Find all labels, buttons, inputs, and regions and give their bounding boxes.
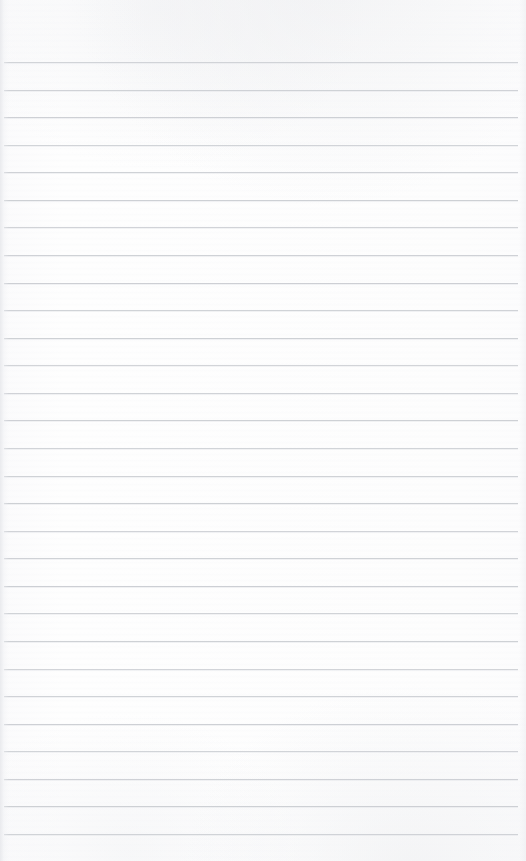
rule-line [4, 62, 518, 63]
rule-line [4, 558, 518, 559]
left-edge-scan-seam [0, 0, 9, 861]
rule-line [4, 393, 518, 394]
rule-line [4, 503, 518, 504]
rule-line [4, 448, 518, 449]
rule-line [4, 586, 518, 587]
rule-line [4, 806, 518, 807]
rule-line [4, 613, 518, 614]
rule-line [4, 90, 518, 91]
rule-line [4, 669, 518, 670]
rule-line [4, 172, 518, 173]
rule-line [4, 420, 518, 421]
rule-line [4, 227, 518, 228]
rule-line [4, 283, 518, 284]
ruled-lines-group [0, 0, 526, 861]
rule-line [4, 117, 518, 118]
rule-line [4, 145, 518, 146]
rule-line [4, 255, 518, 256]
rule-line [4, 476, 518, 477]
rule-line [4, 338, 518, 339]
rule-line [4, 310, 518, 311]
rule-line [4, 779, 518, 780]
rule-line [4, 641, 518, 642]
rule-line [4, 365, 518, 366]
rule-line [4, 834, 518, 835]
rule-line [4, 200, 518, 201]
rule-line [4, 531, 518, 532]
rule-line [4, 751, 518, 752]
right-edge-scan-shadow [519, 0, 526, 861]
rule-line [4, 696, 518, 697]
rule-line [4, 724, 518, 725]
scanned-page [0, 0, 526, 861]
